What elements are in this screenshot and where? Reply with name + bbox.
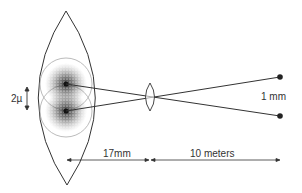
- object-distance-label: 10 meters: [190, 149, 234, 159]
- diagram-canvas: [0, 0, 302, 193]
- pupil-lens: [146, 83, 155, 111]
- object-separation-label: 1 mm: [261, 92, 286, 102]
- light-rays: [66, 77, 280, 116]
- object-point-bottom: [277, 113, 283, 119]
- retina-separation-label: 2µ: [11, 94, 22, 104]
- separation-arrow: [25, 87, 29, 110]
- object-point-top: [277, 74, 283, 80]
- distance-arrows: [67, 159, 280, 162]
- eye-distance-label: 17mm: [103, 149, 131, 159]
- airy-disks: [40, 58, 92, 137]
